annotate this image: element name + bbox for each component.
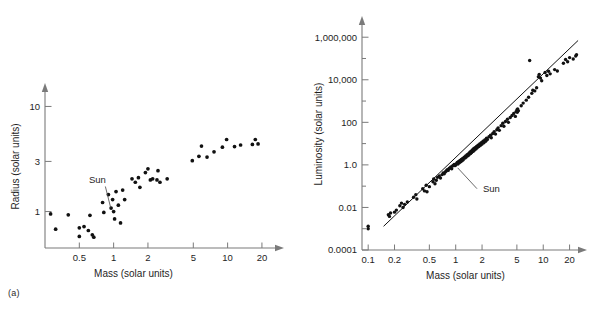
data-point [556, 69, 559, 72]
x-axis-tick-label: 20 [564, 254, 575, 265]
scatter-plot-a: 13100.51251020Mass (solar units)Radius (… [0, 0, 300, 309]
data-point [133, 180, 137, 184]
data-point [190, 159, 194, 163]
data-point [414, 193, 417, 196]
data-point [562, 62, 565, 65]
data-point [77, 235, 81, 239]
data-point [566, 60, 569, 63]
data-point [498, 129, 501, 132]
data-point [401, 206, 404, 209]
data-point [112, 210, 116, 214]
data-point [425, 190, 428, 193]
data-point [575, 53, 578, 56]
data-point [86, 229, 90, 233]
data-point [151, 177, 155, 181]
data-point [388, 215, 391, 218]
data-point [412, 196, 415, 199]
data-point [109, 206, 113, 210]
data-point [155, 178, 159, 182]
x-axis-tick-label: 1 [453, 254, 458, 265]
sun-leader-line [105, 186, 110, 207]
data-point [130, 177, 134, 181]
x-axis-tick-label: 10 [538, 254, 549, 265]
data-point [54, 227, 58, 231]
y-axis-tick-label: 1,000,000 [315, 32, 357, 43]
data-point [517, 109, 520, 112]
data-point [233, 145, 237, 149]
data-point [506, 118, 509, 121]
data-point [49, 212, 53, 216]
y-axis-tick-label: 100 [341, 117, 357, 128]
data-point [545, 74, 548, 77]
x-axis-tick-label: 10 [222, 252, 233, 263]
figure-mass-radius-luminosity: 13100.51251020Mass (solar units)Radius (… [0, 0, 600, 309]
data-point [428, 185, 431, 188]
x-axis-tick-label: 0.2 [388, 254, 401, 265]
data-point [514, 115, 517, 118]
data-point [494, 132, 497, 135]
data-point [144, 171, 148, 175]
data-point [525, 98, 528, 101]
data-point [101, 201, 105, 205]
data-point [88, 214, 92, 218]
data-point [156, 169, 160, 173]
data-point [548, 72, 551, 75]
data-point [540, 79, 543, 82]
y-axis-tick-label: 3 [35, 156, 40, 167]
data-point [435, 179, 438, 182]
data-point [123, 198, 127, 202]
data-point [256, 142, 260, 146]
data-point [507, 121, 510, 124]
data-point-group [49, 138, 260, 239]
data-point [403, 203, 406, 206]
data-point [137, 176, 141, 180]
y-axis-title: Luminosity (solar units) [313, 83, 324, 186]
y-axis-arrow-icon [359, 16, 365, 25]
data-point [406, 200, 409, 203]
x-axis-tick-label: 2 [145, 252, 150, 263]
data-point [528, 59, 531, 62]
x-axis-tick-label: 20 [257, 252, 268, 263]
x-axis-tick-label: 0.5 [73, 252, 86, 263]
x-axis-tick-label: 5 [191, 252, 196, 263]
x-axis-title: Mass (solar units) [94, 268, 173, 279]
data-point [533, 89, 536, 92]
data-point [111, 198, 115, 202]
data-point [121, 188, 125, 192]
data-point [490, 136, 493, 139]
y-axis-tick-label: 1 [35, 206, 40, 217]
data-point [165, 177, 169, 181]
data-point [395, 208, 398, 211]
sun-annotation-label: Sun [89, 174, 106, 185]
data-point [205, 155, 209, 159]
data-point [530, 92, 533, 95]
data-point [92, 235, 96, 239]
data-point [102, 211, 106, 215]
y-axis-tick-label: 10,000 [328, 74, 357, 85]
data-point [253, 138, 257, 142]
data-point [239, 143, 243, 147]
x-axis-title: Mass (solar units) [426, 270, 505, 281]
x-axis-tick-label: 0.1 [362, 254, 375, 265]
y-axis-tick-label: 1.0 [344, 159, 357, 170]
data-point [433, 182, 436, 185]
data-point [415, 197, 418, 200]
data-point [572, 57, 575, 60]
x-axis-arrow-icon [578, 247, 587, 253]
panel-a-mass-radius: 13100.51251020Mass (solar units)Radius (… [0, 0, 300, 309]
data-point [117, 203, 121, 207]
data-point [221, 145, 225, 149]
y-axis-tick-label: 0.01 [339, 202, 358, 213]
data-point [66, 213, 70, 217]
y-axis-arrow-icon [42, 83, 48, 92]
data-point [521, 101, 524, 104]
data-point [535, 86, 538, 89]
y-axis-tick-label: 0.0001 [328, 244, 357, 255]
data-point [527, 96, 530, 99]
x-axis-arrow-icon [275, 245, 284, 251]
data-point [400, 201, 403, 204]
x-axis-tick-label: 1 [111, 252, 116, 263]
data-point [502, 125, 505, 128]
x-axis-tick-label: 2 [479, 254, 484, 265]
panel-b-mass-luminosity: 0.00010.011.010010,0001,000,0000.10.20.5… [300, 0, 600, 309]
